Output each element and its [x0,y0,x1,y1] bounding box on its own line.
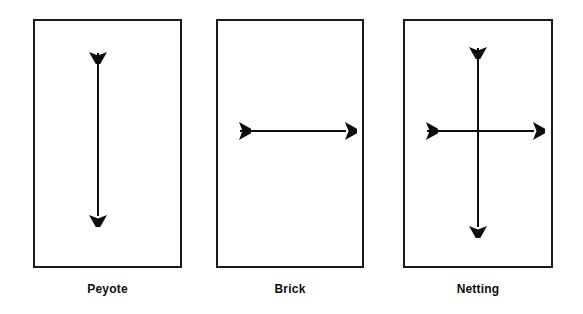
double-headed-cross-arrow-icon [403,19,553,268]
bead-stitch-direction-figure: Peyote Brick [0,0,583,314]
panel-label-peyote: Peyote [33,282,182,296]
panel-peyote: Peyote [33,19,182,268]
panel-netting: Netting [403,19,553,268]
panel-label-netting: Netting [403,282,553,296]
panel-brick: Brick [216,19,364,268]
double-headed-vertical-arrow-icon [33,19,182,268]
double-headed-horizontal-arrow-icon [216,19,364,268]
panel-label-brick: Brick [216,282,364,296]
